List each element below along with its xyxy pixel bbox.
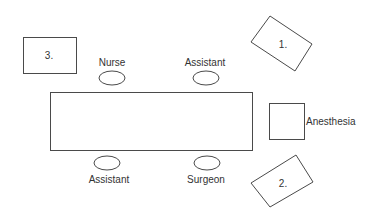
surgeon-label: Surgeon [187,174,225,185]
surgeon-marker [194,156,220,170]
station-box-1: 1. [251,16,312,71]
assistant-top-label: Assistant [185,57,226,68]
box-1-label: 1. [279,39,287,50]
station-box-2: 2. [251,155,313,207]
position-surgeon: Surgeon [187,156,225,185]
nurse-label: Nurse [99,57,126,68]
position-assistant-top: Assistant [185,57,226,85]
station-anesthesia: Anesthesia [270,104,356,140]
box-3-label: 3. [45,50,53,61]
operating-table [51,93,253,151]
position-assistant-bottom: Assistant [89,156,130,185]
anesthesia-label: Anesthesia [306,116,356,127]
assistant-bottom-marker [94,156,120,170]
operating-room-diagram: 3. Nurse Assistant 1. Anesthesia Assista… [0,0,367,216]
assistant-bottom-label: Assistant [89,174,130,185]
station-box-3: 3. [24,38,77,74]
nurse-marker [99,71,125,85]
position-nurse: Nurse [99,57,126,85]
anesthesia-rect [270,104,305,140]
assistant-top-marker [193,71,219,85]
box-2-label: 2. [279,178,287,189]
